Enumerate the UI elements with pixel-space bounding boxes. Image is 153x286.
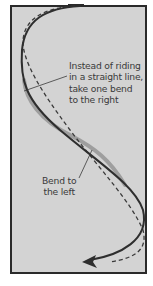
leader-line-left — [79, 150, 92, 178]
annotation-line: Bend to — [42, 175, 76, 186]
solid-curve-path — [22, 6, 144, 260]
annotation-line: in a straight line, — [69, 71, 143, 82]
riding-path-diagram — [0, 0, 153, 286]
annotation-left-bend: Bend to the left — [42, 175, 76, 198]
leader-line-right — [24, 76, 67, 91]
annotation-right-bend: Instead of riding in a straight line, ta… — [69, 60, 143, 106]
annotation-line: the left — [42, 186, 76, 197]
dashed-straight-line — [23, 6, 144, 262]
annotation-line: to the right — [69, 94, 143, 105]
arrowhead-icon — [82, 255, 97, 268]
annotation-line: take one bend — [69, 83, 143, 94]
annotation-line: Instead of riding — [69, 60, 143, 71]
